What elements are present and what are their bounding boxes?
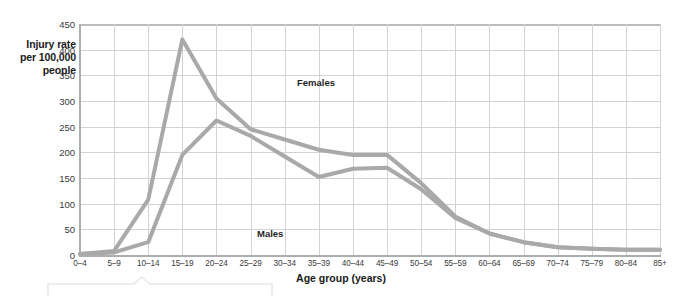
y-tick-label: 50 bbox=[64, 224, 75, 235]
series-line-females bbox=[80, 39, 660, 254]
x-tick-label: 40–44 bbox=[342, 259, 364, 268]
y-tick-label: 450 bbox=[59, 19, 75, 30]
y-tick-label: 300 bbox=[59, 96, 75, 107]
x-tick-label: 85+ bbox=[653, 259, 667, 268]
series-label-males: Males bbox=[257, 228, 283, 239]
gridline-vertical bbox=[660, 24, 661, 255]
x-tick-label: 25–29 bbox=[239, 259, 261, 268]
series-line-males bbox=[80, 121, 660, 254]
x-tick-label: 10–14 bbox=[137, 259, 159, 268]
x-tick-label: 30–34 bbox=[274, 259, 296, 268]
y-tick-label: 350 bbox=[59, 70, 75, 81]
plot-area: Females Males bbox=[80, 24, 660, 255]
x-tick-label: 65–69 bbox=[512, 259, 534, 268]
series-label-females: Females bbox=[297, 77, 335, 88]
x-tick-label: 55–59 bbox=[444, 259, 466, 268]
x-tick-label: 45–49 bbox=[376, 259, 398, 268]
x-tick-label: 75–79 bbox=[581, 259, 603, 268]
y-tick-label: 150 bbox=[59, 173, 75, 184]
x-tick-label: 20–24 bbox=[205, 259, 227, 268]
x-tick-label: 70–74 bbox=[547, 259, 569, 268]
x-tick-label: 50–54 bbox=[410, 259, 432, 268]
series-lines bbox=[80, 24, 660, 255]
x-tick-label: 80–84 bbox=[615, 259, 637, 268]
y-tick-label: 200 bbox=[59, 147, 75, 158]
x-tick-label: 15–19 bbox=[171, 259, 193, 268]
x-tick-label: 35–39 bbox=[308, 259, 330, 268]
callout-outline bbox=[46, 276, 274, 297]
y-tick-label: 250 bbox=[59, 121, 75, 132]
x-tick-label: 0–4 bbox=[73, 259, 86, 268]
x-tick-label: 5–9 bbox=[107, 259, 120, 268]
y-axis-tick-labels: 050100150200250300350400450 bbox=[40, 24, 75, 255]
x-tick-label: 60–64 bbox=[478, 259, 500, 268]
y-tick-label: 100 bbox=[59, 198, 75, 209]
x-axis-line bbox=[79, 255, 661, 257]
x-axis-tick-labels: 0–45–910–1415–1920–2425–2930–3435–3940–4… bbox=[80, 259, 660, 273]
y-tick-label: 400 bbox=[59, 44, 75, 55]
injury-rate-line-chart: Injury rate per 100,000 people 050100150… bbox=[0, 0, 682, 297]
